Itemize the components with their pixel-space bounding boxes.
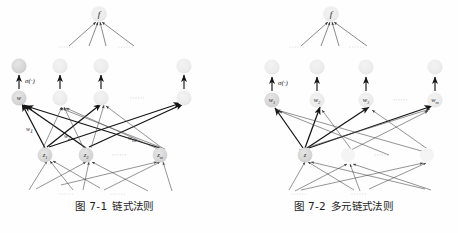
figure-caption-title-left: 链式法则 — [112, 200, 153, 212]
input-node-z-label: z — [303, 151, 307, 158]
input-node-z[interactable]: z — [298, 148, 313, 163]
bottom-edge-group — [289, 162, 431, 191]
hidden-node-w-label: w — [17, 94, 22, 101]
figure-caption-number-left: 图 7-1 — [75, 200, 107, 212]
hidden-node-w2[interactable]: w2 — [309, 92, 324, 107]
ellipsis-input-row: ······ — [112, 151, 127, 158]
activation-label: σ(·) — [25, 77, 36, 85]
figure-multivariate-chain-rule: z ······ w1 w2 — [229, 0, 458, 233]
hidden-node-w1[interactable]: w1 — [264, 92, 279, 107]
figure-chain-rule: w1 w2 wm z1 z2 — [0, 0, 229, 233]
activation-arrow-group — [272, 77, 435, 91]
figure-caption-left: 图 7-1链式法则 — [0, 198, 229, 213]
upper-ghost-node-2[interactable] — [309, 59, 324, 74]
hidden-node-m[interactable] — [176, 90, 191, 105]
upper-ghost-node-1[interactable] — [11, 58, 26, 73]
activation-label: σ(·) — [278, 79, 289, 87]
ellipsis-upper-right: ······ — [118, 44, 134, 50]
output-node-f[interactable]: f — [323, 6, 339, 22]
ellipsis-upper-left: ······ — [58, 44, 74, 50]
input-node-zm[interactable]: zm — [153, 148, 168, 163]
ellipsis-upper-right: ······ — [349, 44, 365, 50]
figure-caption-right: 图 7-2多元链式法则 — [229, 198, 458, 213]
input-node-z1[interactable]: z1 — [38, 148, 53, 163]
hidden-node-wm[interactable]: wm — [427, 92, 442, 107]
input-node-z2[interactable]: z2 — [79, 148, 94, 163]
fanout-edge-group-light — [277, 109, 430, 155]
ellipsis-bottom-right: ······ — [351, 191, 367, 197]
upper-ghost-node-3[interactable] — [358, 59, 373, 74]
bottom-edge-group — [29, 161, 172, 191]
output-edge-group — [301, 22, 367, 46]
upper-ghost-node-m[interactable] — [427, 59, 442, 74]
ellipsis-bottom-left: ······ — [291, 191, 307, 197]
weight-label-m: wm — [128, 135, 137, 143]
upper-ghost-node-m[interactable] — [176, 58, 191, 73]
chain-rule-diagram: w1 w2 wm z1 z2 — [0, 0, 229, 200]
figure-caption-title-right: 多元链式法则 — [331, 200, 393, 212]
figure-caption-number-right: 图 7-2 — [294, 200, 326, 212]
ellipsis-hidden-row: ······ — [393, 96, 408, 103]
ellipsis-bottom-right: ······ — [110, 191, 126, 197]
ellipsis-input-row: ······ — [374, 151, 389, 158]
ellipsis-hidden-row: ······ — [130, 94, 145, 101]
fanout-edge-group-strong — [275, 106, 432, 148]
hidden-node-2[interactable] — [52, 90, 67, 105]
multivariate-chain-rule-diagram: z ······ w1 w2 — [229, 0, 458, 200]
ellipsis-bottom-left: ······ — [58, 191, 74, 197]
input-ghost-node-2[interactable] — [420, 148, 434, 162]
hidden-node-w[interactable]: w — [11, 90, 26, 105]
upper-ghost-node-3[interactable] — [93, 58, 108, 73]
output-node-f[interactable]: f — [91, 6, 107, 22]
hidden-node-w3[interactable]: w3 — [358, 92, 373, 107]
figure-page: w1 w2 wm z1 z2 — [0, 0, 458, 233]
output-edge-group — [69, 22, 134, 46]
weight-label-2: w2 — [64, 133, 71, 141]
upper-ghost-node-1[interactable] — [264, 59, 279, 74]
hidden-node-3[interactable] — [93, 90, 108, 105]
activation-arrow-group — [19, 75, 184, 89]
weight-label-1: w1 — [26, 126, 33, 134]
input-ghost-node-1[interactable] — [341, 148, 355, 162]
upper-ghost-node-2[interactable] — [52, 58, 67, 73]
